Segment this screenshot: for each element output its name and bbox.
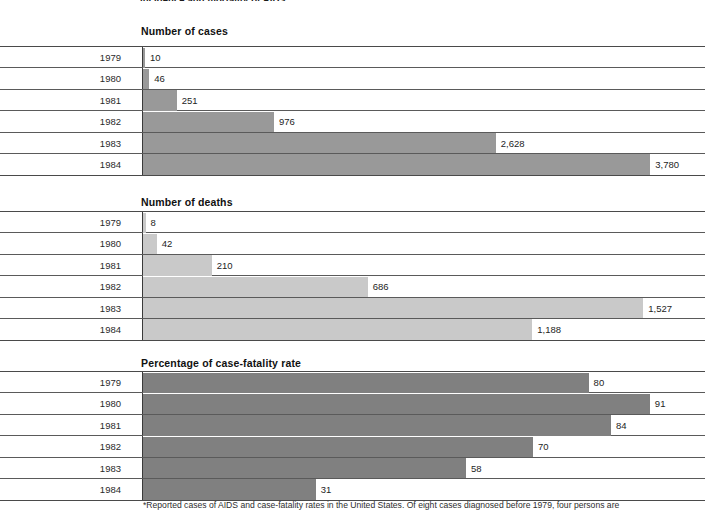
chart-title-deaths: Number of deaths (141, 196, 233, 208)
chart-row: 19843,780 (0, 154, 705, 175)
bar-fatality-1983 (143, 458, 466, 478)
chart-rows-deaths: 197981980421981210198268619831,52719841,… (0, 211, 705, 341)
year-label: 1980 (0, 233, 131, 253)
year-label: 1982 (0, 436, 131, 456)
chart-row: 198431 (0, 479, 705, 500)
chart-row: 197910 (0, 47, 705, 68)
bar-value-label: 70 (533, 436, 549, 456)
bar-value-label: 84 (611, 415, 627, 435)
bar-value-label: 210 (212, 255, 233, 275)
chart-row: 198358 (0, 458, 705, 479)
bar-fatality-1982 (143, 437, 533, 457)
bar-fatality-1980 (143, 394, 650, 414)
bar-deaths-1983 (143, 298, 643, 318)
year-label: 1984 (0, 319, 131, 340)
year-label: 1981 (0, 90, 131, 110)
year-label: 1984 (0, 479, 131, 500)
chart-rows-fatality: 197980198091198184198270198358198431 (0, 371, 705, 501)
bar-value-label: 8 (146, 212, 156, 232)
chart-rows-cases: 1979101980461981251198297619832,62819843… (0, 46, 705, 176)
year-label: 1979 (0, 212, 131, 232)
year-label: 1983 (0, 298, 131, 318)
bar-deaths-1980 (143, 234, 157, 254)
bar-deaths-1984 (143, 319, 532, 339)
bar-value-label: 42 (157, 233, 173, 253)
bar-fatality-1981 (143, 415, 611, 435)
chart-row: 19798 (0, 212, 705, 233)
bar-deaths-1982 (143, 277, 368, 297)
bar-cases-1983 (143, 133, 496, 153)
year-label: 1979 (0, 47, 131, 67)
year-label: 1982 (0, 111, 131, 131)
bar-value-label: 251 (177, 90, 198, 110)
year-label: 1979 (0, 372, 131, 392)
chart-row: 198042 (0, 233, 705, 254)
chart-row: 198270 (0, 436, 705, 457)
bar-value-label: 46 (149, 68, 165, 88)
bar-fatality-1984 (143, 479, 316, 499)
chart-row: 198046 (0, 68, 705, 89)
chart-row: 197980 (0, 372, 705, 393)
bar-fatality-1979 (143, 373, 589, 393)
chart-title-cases: Number of cases (141, 25, 228, 37)
chart-row: 19831,527 (0, 298, 705, 319)
bar-value-label: 58 (466, 458, 482, 478)
bar-value-label: 91 (650, 393, 666, 413)
chart-row: 19832,628 (0, 133, 705, 154)
year-label: 1981 (0, 255, 131, 275)
chart-row: 1982686 (0, 276, 705, 297)
bar-value-label: 2,628 (496, 133, 525, 153)
bar-cases-1982 (143, 112, 274, 132)
bar-cases-1984 (143, 154, 650, 174)
bar-value-label: 1,188 (532, 319, 561, 340)
chart-row: 19841,188 (0, 319, 705, 340)
chart-row: 1981251 (0, 90, 705, 111)
bar-value-label: 80 (589, 372, 605, 392)
year-label: 1983 (0, 133, 131, 153)
year-label: 1980 (0, 393, 131, 413)
chart-row: 1982976 (0, 111, 705, 132)
footnote: *Reported cases of AIDS and case-fatalit… (143, 500, 703, 511)
chart-row: 198184 (0, 415, 705, 436)
bar-value-label: 3,780 (650, 154, 679, 175)
bar-cases-1981 (143, 90, 177, 110)
bar-value-label: 10 (145, 47, 161, 67)
chart-row: 198091 (0, 393, 705, 414)
year-label: 1982 (0, 276, 131, 296)
bar-value-label: 1,527 (643, 298, 672, 318)
chart-row: 1981210 (0, 255, 705, 276)
bar-value-label: 31 (316, 479, 332, 500)
year-label: 1984 (0, 154, 131, 175)
bar-value-label: 686 (368, 276, 389, 296)
bar-value-label: 976 (274, 111, 295, 131)
chart-title-fatality: Percentage of case-fatality rate (141, 357, 301, 369)
page-title: Incidence and mortality of AIDS (140, 0, 286, 1)
year-label: 1980 (0, 68, 131, 88)
year-label: 1983 (0, 458, 131, 478)
chart-page: Incidence and mortality of AIDS Number o… (0, 0, 705, 516)
bar-deaths-1981 (143, 255, 212, 275)
year-label: 1981 (0, 415, 131, 435)
